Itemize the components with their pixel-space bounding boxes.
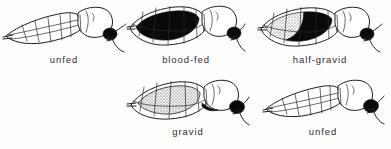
gravid-drawing [127, 77, 249, 125]
head-blood-fed [227, 27, 241, 39]
specimen-gravid [127, 77, 249, 125]
head-half-gravid [360, 28, 374, 40]
unfed-bottom-drawing [262, 77, 384, 125]
half-gravid-drawing [258, 4, 382, 52]
label-unfed-bottom: unfed [262, 126, 384, 137]
abdomen-unfed-bottom [263, 86, 340, 117]
blood-fed-drawing [127, 4, 245, 52]
specimen-unfed-top [2, 4, 126, 52]
mosquito-abdomen-diagram: unfed [0, 0, 391, 149]
head-gravid [230, 101, 245, 114]
abdomen-unfed [3, 13, 80, 44]
label-blood-fed: blood-fed [127, 54, 245, 65]
abdomen-blood-fed [127, 7, 204, 46]
label-unfed-top: unfed [2, 54, 126, 65]
abdomen-half-gravid [258, 8, 337, 47]
label-gravid: gravid [127, 126, 249, 137]
head-unfed-bottom [364, 100, 379, 113]
head-unfed [103, 28, 117, 40]
label-half-gravid: half-gravid [258, 54, 382, 65]
abdomen-gravid [127, 82, 206, 120]
specimen-blood-fed [127, 4, 245, 52]
unfed-top-drawing [2, 4, 126, 52]
specimen-half-gravid [258, 4, 382, 52]
specimen-unfed-bottom [262, 77, 384, 125]
